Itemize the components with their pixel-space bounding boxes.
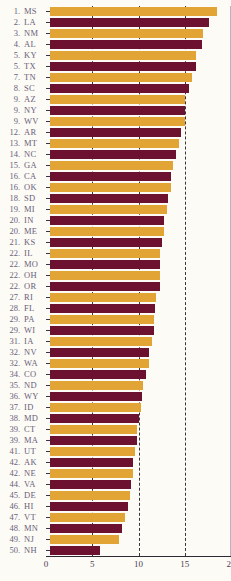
table-row: 21.KS — [0, 237, 231, 248]
row-rank: 12. — [0, 128, 20, 137]
bar-track — [50, 94, 231, 105]
row-state-abbr: ID — [20, 403, 46, 412]
row-rank: 22. — [0, 260, 20, 269]
bar-tn — [50, 73, 192, 82]
bar-track — [50, 413, 231, 424]
bar-track — [50, 149, 231, 160]
table-row: 20.ME — [0, 226, 231, 237]
bar-or — [50, 282, 160, 291]
table-row: 32.WA — [0, 358, 231, 369]
bar-mn — [50, 524, 122, 533]
row-state-abbr: OK — [20, 183, 46, 192]
table-row: 32.NV — [0, 347, 231, 358]
bar-track — [50, 512, 231, 523]
row-state-abbr: NV — [20, 348, 46, 357]
table-row: 14.NC — [0, 149, 231, 160]
bar-track — [50, 369, 231, 380]
bar-track — [50, 28, 231, 39]
row-state-abbr: AZ — [20, 95, 46, 104]
bar-wv — [50, 117, 185, 126]
row-state-abbr: SD — [20, 194, 46, 203]
bar-track — [50, 424, 231, 435]
bar-track — [50, 204, 231, 215]
bar-az — [50, 95, 185, 104]
row-rank: 36. — [0, 392, 20, 401]
bar-track — [50, 116, 231, 127]
bar-track — [50, 402, 231, 413]
bar-co — [50, 370, 146, 379]
row-rank: 42. — [0, 469, 20, 478]
table-row: 42.NE — [0, 468, 231, 479]
row-rank: 29. — [0, 315, 20, 324]
bar-ca — [50, 172, 171, 181]
table-row: 48.MN — [0, 523, 231, 534]
bar-ms — [50, 7, 217, 16]
row-state-abbr: KS — [20, 238, 46, 247]
bar-fl — [50, 304, 155, 313]
bar-track — [50, 468, 231, 479]
row-state-abbr: NJ — [20, 535, 46, 544]
row-rank: 45. — [0, 491, 20, 500]
row-rank: 39. — [0, 425, 20, 434]
table-row: 16.OK — [0, 182, 231, 193]
table-row: 3.NM — [0, 28, 231, 39]
table-row: 7.TN — [0, 72, 231, 83]
bar-track — [50, 171, 231, 182]
row-state-abbr: LA — [20, 18, 46, 27]
row-state-abbr: MD — [20, 414, 46, 423]
bar-md — [50, 414, 139, 423]
row-rank: 35. — [0, 381, 20, 390]
bar-ok — [50, 183, 171, 192]
bar-track — [50, 72, 231, 83]
bar-sc — [50, 84, 189, 93]
table-row: 46.HI — [0, 501, 231, 512]
row-rank: 7. — [0, 73, 20, 82]
x-tick-label-5: 5 — [90, 559, 95, 570]
row-rank: 3. — [0, 29, 20, 38]
row-rank: 47. — [0, 513, 20, 522]
bar-ga — [50, 161, 173, 170]
row-rank: 42. — [0, 458, 20, 467]
bar-track — [50, 358, 231, 369]
row-rank: 5. — [0, 62, 20, 71]
bar-ny — [50, 106, 185, 115]
row-rank: 27. — [0, 293, 20, 302]
row-state-abbr: DE — [20, 491, 46, 500]
row-state-abbr: NC — [20, 150, 46, 159]
bar-tx — [50, 62, 196, 71]
bar-la — [50, 18, 209, 27]
row-state-abbr: NE — [20, 469, 46, 478]
bar-track — [50, 39, 231, 50]
x-axis-labels: 05101520 — [0, 559, 231, 575]
row-rank: 18. — [0, 194, 20, 203]
bar-track — [50, 292, 231, 303]
row-rank: 44. — [0, 480, 20, 489]
row-rank: 37. — [0, 403, 20, 412]
bar-rows: 1.MS2.LA3.NM4.AL5.KY5.TX7.TN8.SC9.AZ9.NY… — [0, 6, 231, 556]
bar-oh — [50, 271, 160, 280]
table-row: 16.CA — [0, 171, 231, 182]
table-row: 27.RI — [0, 292, 231, 303]
x-axis-line — [46, 556, 231, 557]
table-row: 4.AL — [0, 39, 231, 50]
bar-track — [50, 446, 231, 457]
bar-track — [50, 193, 231, 204]
bar-track — [50, 314, 231, 325]
table-row: 2.LA — [0, 17, 231, 28]
bar-sd — [50, 194, 168, 203]
row-state-abbr: IN — [20, 216, 46, 225]
bar-me — [50, 227, 164, 236]
row-state-abbr: WY — [20, 392, 46, 401]
bar-track — [50, 457, 231, 468]
row-rank: 41. — [0, 447, 20, 456]
row-state-abbr: MT — [20, 139, 46, 148]
row-rank: 20. — [0, 216, 20, 225]
row-rank: 9. — [0, 106, 20, 115]
row-state-abbr: PA — [20, 315, 46, 324]
row-state-abbr: WI — [20, 326, 46, 335]
row-state-abbr: ND — [20, 381, 46, 390]
row-state-abbr: NM — [20, 29, 46, 38]
bar-ar — [50, 128, 181, 137]
table-row: 19.MI — [0, 204, 231, 215]
row-state-abbr: FL — [20, 304, 46, 313]
